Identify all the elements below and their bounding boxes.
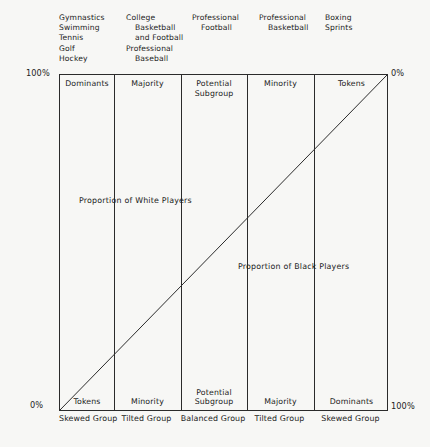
group-type-label-4: Tilted Group [246,414,313,423]
sport-name: Basketball [259,23,309,33]
column-divider-4 [314,75,315,410]
sport-category-column-2: CollegeBasketballand FootballProfessiona… [126,13,183,64]
sport-name: Football [192,23,239,33]
cell-top-label-2: Majority [114,79,181,89]
sport-name: Boxing [325,13,352,23]
group-type-label-2: Tilted Group [113,414,180,423]
annotation-white-players: Proportion of White Players [79,196,192,205]
column-divider-3 [247,75,248,410]
cell-bottom-label-4: Majority [247,397,314,407]
cell-bottom-label-5: Dominants [314,397,389,407]
cell-top-label-5: Tokens [314,79,389,89]
cell-bottom-label-3: Potential Subgroup [181,388,247,407]
sport-name: College [126,13,183,23]
axis-label-top-left-percent: 100% [26,68,50,78]
sport-category-header-row: GymnasticsSwimmingTennisGolfHockey Colle… [59,13,389,71]
cell-top-label-4: Minority [247,79,314,89]
sport-category-column-3: ProfessionalFootball [192,13,239,33]
sport-category-column-1: GymnasticsSwimmingTennisGolfHockey [59,13,105,64]
sport-name: and Football [126,33,183,43]
figure-canvas: GymnasticsSwimmingTennisGolfHockey Colle… [0,0,430,447]
annotation-black-players: Proportion of Black Players [238,262,349,271]
sport-category-column-5: BoxingSprints [325,13,352,33]
sport-name: Gymnastics [59,13,105,23]
group-type-label-1: Skewed Group [59,414,113,423]
sport-name: Professional [259,13,309,23]
column-divider-1 [114,75,115,410]
sport-name: Tennis [59,33,105,43]
cell-bottom-label-1: Tokens [60,397,114,407]
sport-name: Golf [59,44,105,54]
group-type-caption-row: Skewed Group Tilted Group Balanced Group… [59,414,388,428]
sport-name: Swimming [59,23,105,33]
sport-name: Professional [126,44,183,54]
cell-top-label-1: Dominants [60,79,114,89]
axis-label-bottom-right-percent: 100% [391,401,415,411]
sport-category-column-4: ProfessionalBasketball [259,13,309,33]
group-type-label-3: Balanced Group [180,414,246,423]
axis-label-bottom-left-percent: 0% [30,400,43,410]
cell-top-label-3: Potential Subgroup [181,79,247,98]
column-divider-2 [181,75,182,410]
continuum-chart-box: Dominants Majority Potential Subgroup Mi… [59,74,388,411]
sport-name: Baseball [126,54,183,64]
proportion-diagonal-line [60,75,387,410]
axis-label-top-right-percent: 0% [391,68,404,78]
sport-name: Professional [192,13,239,23]
sport-name: Sprints [325,23,352,33]
sport-name: Basketball [126,23,183,33]
group-type-label-5: Skewed Group [313,414,388,423]
sport-name: Hockey [59,54,105,64]
cell-bottom-label-2: Minority [114,397,181,407]
